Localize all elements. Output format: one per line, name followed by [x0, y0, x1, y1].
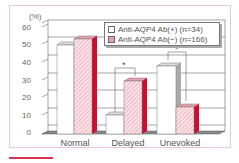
legend-swatch-pink	[108, 36, 115, 43]
significance-star-delayed: *	[122, 60, 126, 70]
x-label-unevoked: Unevoked	[155, 138, 205, 148]
legend-label-positive: Anti-AQP4 Ab(+) (n=34)	[118, 25, 203, 34]
legend-label-negative: Anti-AQP4 Ab(−) (n=166)	[118, 35, 207, 44]
legend-item-positive: Anti-AQP4 Ab(+) (n=34)	[108, 25, 203, 34]
legend-swatch-white	[108, 26, 115, 33]
legend-item-negative: Anti-AQP4 Ab(−) (n=166)	[108, 35, 207, 44]
x-label-normal: Normal	[50, 138, 100, 148]
x-label-delayed: Delayed	[103, 138, 153, 148]
legend: Anti-AQP4 Ab(+) (n=34) Anti-AQP4 Ab(−) (…	[104, 22, 220, 46]
